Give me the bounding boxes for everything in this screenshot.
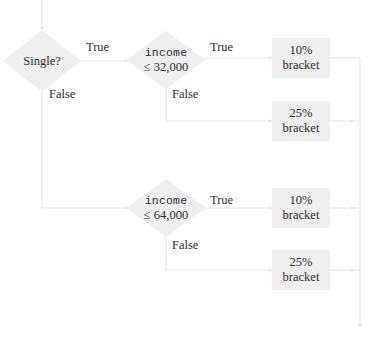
outcome-box-10pct-married: 10% bracket: [272, 188, 330, 228]
arrow-dot-icon: [358, 323, 362, 327]
outcome-rate: 25%: [290, 255, 313, 270]
arrow-dot-icon: [351, 120, 354, 123]
arrow-dot-icon: [269, 269, 272, 272]
arrow-dot-icon: [269, 120, 272, 123]
decision-condition-label: ≤ 32,000: [144, 60, 188, 75]
arrow-dot-icon: [351, 207, 354, 210]
outcome-box-25pct-single: 25% bracket: [272, 101, 330, 141]
edge-label-income32-true: True: [210, 40, 233, 54]
outcome-rate: 10%: [290, 193, 313, 208]
outcome-box-10pct-single: 10% bracket: [272, 38, 330, 78]
decision-var-label: income: [145, 193, 188, 208]
decision-var-label: income: [145, 45, 188, 60]
edge-label-single-true: True: [86, 40, 109, 54]
arrow-dot-icon: [41, 27, 44, 30]
decision-income-64000: income ≤ 64,000: [127, 179, 205, 237]
edge-label-single-false: False: [49, 87, 75, 101]
decision-income-32000: income ≤ 32,000: [127, 31, 205, 89]
arrow-dot-icon: [351, 269, 354, 272]
outcome-rate: 25%: [290, 106, 313, 121]
edge-label-income64-true: True: [210, 193, 233, 207]
outcome-box-25pct-married: 25% bracket: [272, 250, 330, 290]
arrow-dot-icon: [269, 57, 272, 60]
outcome-label: bracket: [283, 121, 320, 136]
edge-single-false: [42, 92, 127, 208]
outcome-rate: 10%: [290, 43, 313, 58]
decision-single-label: Single?: [23, 54, 61, 69]
outcome-label: bracket: [283, 58, 320, 73]
outcome-label: bracket: [283, 270, 320, 285]
arrow-dot-icon: [269, 207, 272, 210]
edge-label-income64-false: False: [172, 238, 198, 252]
decision-single: Single?: [3, 32, 81, 90]
outcome-label: bracket: [283, 208, 320, 223]
edge-label-income32-false: False: [172, 87, 198, 101]
decision-condition-label: ≤ 64,000: [144, 208, 188, 223]
